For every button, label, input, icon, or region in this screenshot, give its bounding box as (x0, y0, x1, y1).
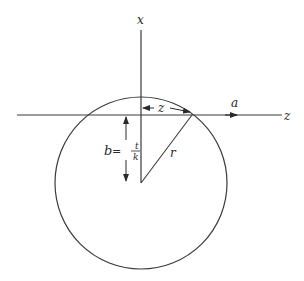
z-distance-label: z (157, 101, 165, 115)
b-equals: = (112, 145, 121, 158)
x-axis-label: x (137, 13, 144, 27)
circle-geometry-diagram: x z a z r b = t k (0, 0, 304, 281)
radius-label: r (170, 146, 177, 160)
b-numerator: t (135, 141, 139, 151)
b-denominator: k (133, 152, 138, 162)
radius-line (141, 115, 192, 183)
z-axis-label: z (283, 109, 291, 123)
a-label: a (231, 96, 238, 110)
